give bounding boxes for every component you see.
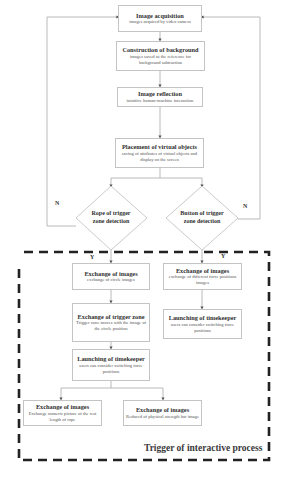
box-title: Image reflection [138, 90, 182, 98]
box-exchange-force-images: Exchange of images exchange of different… [163, 263, 242, 290]
box-image-acquisition: Image acquisition images acquired by vid… [118, 5, 202, 32]
no-label-right: N [243, 203, 247, 209]
box-subtitle: Trigger zone moves with the image of the… [75, 320, 147, 332]
box-title: Construction of background [122, 46, 198, 54]
box-subtitle: exchange of circle images [87, 277, 135, 283]
box-title: Exchange of images [176, 267, 229, 275]
box-exchange-strength-bar: Exchange of images Reduced of physical s… [123, 400, 202, 426]
box-placement-virtual-objects: Placement of virtual objects saving of a… [115, 138, 204, 168]
decision-rope-label: Rope of trigger zone detection [81, 209, 141, 225]
box-subtitle: images saved as the reference for backgr… [119, 54, 202, 66]
yes-label-right: Y [221, 253, 225, 259]
box-launching-timekeeper-left: Launching of timekeeper users can consid… [72, 349, 150, 381]
box-exchange-rope-length: Exchange of images Exchange numeric pict… [23, 400, 102, 426]
box-construction-background: Construction of background images saved … [116, 41, 205, 71]
box-title: Exchange of images [136, 406, 189, 414]
box-subtitle: users can consider switching force posit… [166, 322, 239, 334]
box-title: Image acquisition [136, 12, 184, 20]
box-title: Launching of timekeeper [169, 314, 237, 322]
box-subtitle: exchange of different force positions im… [166, 274, 239, 286]
box-subtitle: Exchange numeric picture of the rest len… [26, 411, 99, 423]
box-title: Placement of virtual objects [122, 143, 197, 151]
box-exchange-trigger-zone: Exchange of trigger zone Trigger zone mo… [72, 303, 150, 342]
box-subtitle: saving of attributes of virtual objects … [118, 151, 201, 163]
yes-label-left: Y [90, 254, 94, 260]
no-label-left: N [55, 200, 59, 206]
box-subtitle: Reduced of physical strength bar image [126, 414, 199, 420]
box-title: Exchange of images [84, 270, 137, 278]
box-subtitle: intuitive human-machine interaction [127, 98, 194, 104]
box-exchange-circle-images: Exchange of images exchange of circle im… [72, 263, 150, 290]
group-caption: Trigger of interactive process [144, 443, 262, 453]
box-subtitle: users can consider switching force posit… [75, 363, 147, 375]
box-title: Exchange of images [36, 403, 89, 411]
box-title: Exchange of trigger zone [78, 313, 145, 321]
box-image-reflection: Image reflection intuitive human-machine… [117, 87, 203, 107]
decision-button-label: Button of trigger zone detection [172, 209, 232, 225]
box-title: Launching of timekeeper [77, 355, 145, 363]
box-launching-timekeeper-right: Launching of timekeeper users can consid… [163, 309, 242, 339]
box-subtitle: images acquired by video camera [129, 19, 190, 25]
